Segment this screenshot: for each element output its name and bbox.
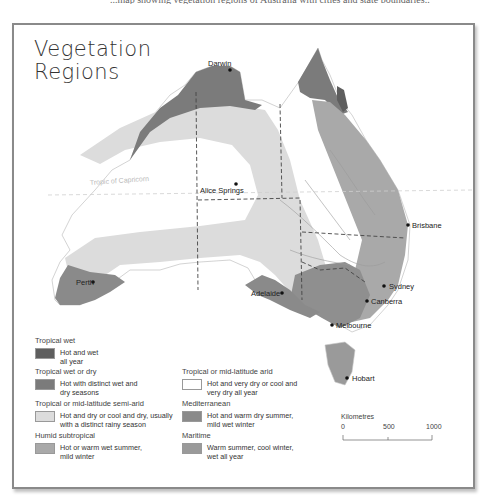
legend-item-mediterranean: Mediterranean Hot and warm dry summer,mi… xyxy=(182,399,352,429)
legend-item-humid-subtropical: Humid subtropical Hot or warm wet summer… xyxy=(35,431,205,461)
scale-tick-500: 500 xyxy=(383,423,395,430)
legend-item-arid: Tropical or mid-latitude arid Hot and ve… xyxy=(182,367,352,397)
scale-tick-0: 0 xyxy=(341,423,345,430)
legend: Tropical wet Hot and wetall year Tropica… xyxy=(0,0,488,500)
swatch-tropical-wet xyxy=(35,348,55,359)
legend-item-tropical-wet-dry: Tropical wet or dry Hot with distinct we… xyxy=(35,367,205,397)
swatch-semi-arid xyxy=(35,411,55,422)
swatch-arid xyxy=(182,379,202,390)
legend-item-tropical-wet: Tropical wet Hot and wetall year xyxy=(35,336,205,366)
scale-tick-1000: 1000 xyxy=(426,423,442,430)
swatch-tropical-wet-dry xyxy=(35,379,55,390)
swatch-mediterranean xyxy=(182,411,202,422)
swatch-humid-subtropical xyxy=(35,443,55,454)
legend-item-maritime: Maritime Warm summer, cool winter,wet al… xyxy=(182,431,352,461)
swatch-maritime xyxy=(182,443,202,454)
scale-title: Kilometres xyxy=(341,413,374,420)
